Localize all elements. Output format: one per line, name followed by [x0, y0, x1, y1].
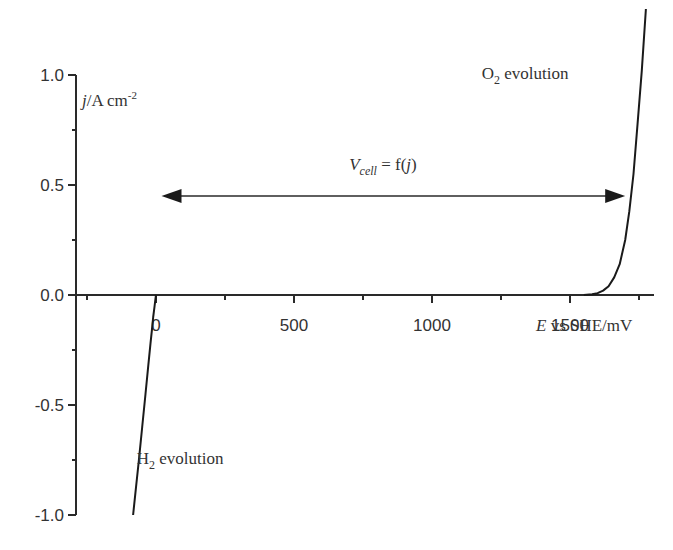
arrowhead-left [162, 189, 182, 203]
x-axis-label: E vs SHE/mV [535, 316, 633, 335]
vcell-label: Vcell = f(j) [349, 155, 417, 178]
y-tick-label: 0.0 [40, 286, 64, 305]
o2-label-text: evolution [500, 64, 569, 83]
o2-label-element: O [482, 64, 494, 83]
x-tick-label: 1000 [413, 316, 451, 335]
vcell-arrow-group [162, 189, 626, 203]
y-axis-label: j/A cm-2 [80, 89, 137, 110]
arrowhead-right [605, 189, 625, 203]
vcell-close: ) [411, 155, 417, 174]
chart-svg: 1.00.50.0-0.5-1.0050010001500 j/A cm-2 E… [0, 0, 673, 550]
vcell-equals: = f( [377, 155, 407, 174]
y-axis-label-unit: /A cm [87, 91, 128, 110]
h2-label: H2 evolution [137, 449, 224, 472]
h2-evolution-curve [133, 295, 156, 515]
h2-label-element: H [137, 449, 149, 468]
x-tick-label: 500 [280, 316, 308, 335]
y-tick-label: -1.0 [35, 506, 64, 525]
y-axis-label-exponent: -2 [128, 89, 137, 101]
x-axis-label-unit: vs SHE/mV [546, 316, 633, 335]
y-tick-label: -0.5 [35, 396, 64, 415]
h2-label-text: evolution [155, 449, 224, 468]
y-tick-label: 0.5 [40, 176, 64, 195]
annotations: O2 evolutionH2 evolutionVcell = f(j) [137, 64, 569, 472]
y-tick-label: 1.0 [40, 66, 64, 85]
o2-label: O2 evolution [482, 64, 569, 87]
vcell-subscript: cell [360, 164, 378, 178]
series-group [133, 9, 646, 515]
x-axis-label-var: E [535, 316, 547, 335]
o2-evolution-curve [584, 9, 646, 295]
